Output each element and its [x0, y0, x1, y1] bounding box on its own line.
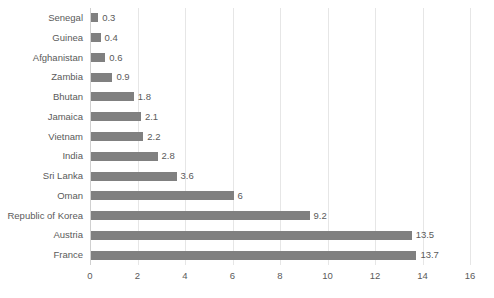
bar: [91, 92, 134, 101]
bar-row: Vietnam2.2: [0, 127, 494, 147]
x-tick-label: 8: [260, 266, 300, 286]
bar-value-label: 0.9: [116, 67, 129, 87]
bar-row: Jamaica2.1: [0, 107, 494, 127]
bar: [91, 33, 101, 42]
category-label: Guinea: [0, 28, 83, 48]
bar-value-label: 1.8: [138, 87, 151, 107]
x-tick-label: 0: [70, 266, 110, 286]
bar: [91, 172, 177, 181]
bar-value-label: 2.8: [162, 146, 175, 166]
bar-row: Afghanistan0.6: [0, 48, 494, 68]
x-tick-label: 6: [213, 266, 253, 286]
category-label: Afghanistan: [0, 48, 83, 68]
bar-row: Zambia0.9: [0, 67, 494, 87]
bar-value-label: 2.2: [147, 127, 160, 147]
bar-row: Sri Lanka3.6: [0, 166, 494, 186]
category-label: Zambia: [0, 67, 83, 87]
bar-value-label: 9.2: [314, 206, 327, 226]
category-label: Oman: [0, 186, 83, 206]
category-label: Sri Lanka: [0, 166, 83, 186]
bar-row: Republic of Korea9.2: [0, 206, 494, 226]
x-tick-label: 12: [355, 266, 395, 286]
bar-value-label: 0.3: [102, 8, 115, 28]
category-label: Republic of Korea: [0, 206, 83, 226]
bar: [91, 53, 105, 62]
category-label: Bhutan: [0, 87, 83, 107]
category-label: Vietnam: [0, 127, 83, 147]
bar: [91, 73, 112, 82]
category-label: Austria: [0, 225, 83, 245]
category-label: India: [0, 146, 83, 166]
bar: [91, 152, 158, 161]
bar: [91, 132, 143, 141]
category-label: Jamaica: [0, 107, 83, 127]
bar-row: Guinea0.4: [0, 28, 494, 48]
bar-value-label: 3.6: [181, 166, 194, 186]
bar-row: Bhutan1.8: [0, 87, 494, 107]
bar: [91, 13, 98, 22]
x-axis-tick-labels: 0246810121416: [0, 266, 494, 286]
bar-row: Oman6: [0, 186, 494, 206]
x-tick-label: 2: [118, 266, 158, 286]
x-tick-label: 10: [308, 266, 348, 286]
bar-row: Senegal0.3: [0, 8, 494, 28]
bar: [91, 191, 234, 200]
bar-value-label: 0.4: [105, 28, 118, 48]
bar-value-label: 13.7: [420, 245, 439, 265]
bar-value-label: 2.1: [145, 107, 158, 127]
bar: [91, 112, 141, 121]
bar-value-label: 13.5: [416, 225, 435, 245]
x-tick-label: 4: [165, 266, 205, 286]
bar: [91, 231, 412, 240]
bar-row: France13.7: [0, 245, 494, 265]
bar-row: India2.8: [0, 146, 494, 166]
bar-value-label: 6: [238, 186, 243, 206]
category-label: France: [0, 245, 83, 265]
category-label: Senegal: [0, 8, 83, 28]
bar-value-label: 0.6: [109, 48, 122, 68]
x-tick-label: 14: [403, 266, 443, 286]
bar-chart: Senegal0.3Guinea0.4Afghanistan0.6Zambia0…: [0, 0, 494, 298]
bar: [91, 251, 416, 260]
bar: [91, 211, 310, 220]
bar-row: Austria13.5: [0, 225, 494, 245]
x-tick-label: 16: [450, 266, 490, 286]
